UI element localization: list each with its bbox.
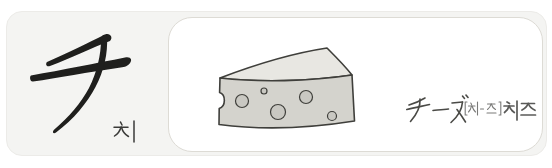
cheese-hole [261,88,267,94]
example-word-pronunciation [464,99,503,119]
chi-stroke-2 [30,57,131,81]
cheese-hole [328,112,337,121]
cheese-hole [271,105,286,120]
example-word-katakana [406,94,469,125]
bracket-open [465,102,467,115]
example-word-meaning [503,100,538,121]
flashcard [6,11,547,156]
kana-zu-stroke [451,102,463,123]
hangul-chi-stroke [469,106,472,112]
cheese-top-face [220,48,352,81]
hangul-chi-stroke [472,106,476,112]
example-box [168,17,543,152]
dakuten-mark [466,95,468,98]
kana-long-vowel-bar [433,109,449,111]
hangul-chi-stroke [509,106,514,113]
kana-chi-stroke [409,98,425,105]
bracket-close [499,102,501,115]
hangul-jeu-stroke [528,104,535,111]
hangul-chi-stroke [505,106,510,113]
hangul-chi-stroke [471,103,472,105]
hangul-jeu-stroke [491,104,495,110]
character-panel [7,12,169,157]
cheese-wedge-illustration [204,44,368,134]
cheese-hole [300,91,313,104]
chieut-right-leg [122,127,129,136]
korean-reading [111,115,141,145]
hangul-chi-stroke [507,102,510,104]
kana-zu-stroke [452,102,463,103]
hangul-jeu-stroke [522,104,528,111]
chieut-left-leg [115,127,122,136]
cheese-hole [236,95,249,108]
chieut-tick [121,122,123,125]
hangul-jeu-stroke [488,104,492,110]
